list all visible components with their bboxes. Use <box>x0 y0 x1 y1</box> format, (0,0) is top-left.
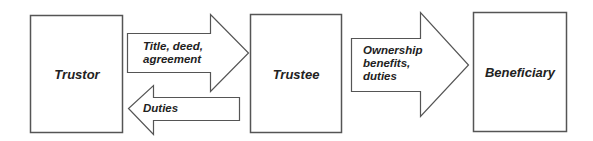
ownership-benefits-duties-label: Ownership benefits, duties <box>363 44 422 83</box>
trustor-label: Trustor <box>54 67 99 82</box>
trust-diagram: Trustor Trustee Beneficiary Title, deed,… <box>0 0 593 141</box>
duties-label: Duties <box>143 102 178 115</box>
beneficiary-label: Beneficiary <box>485 65 555 80</box>
trustee-label: Trustee <box>273 67 320 82</box>
title-deed-agreement-label: Title, deed, agreement <box>143 40 203 66</box>
